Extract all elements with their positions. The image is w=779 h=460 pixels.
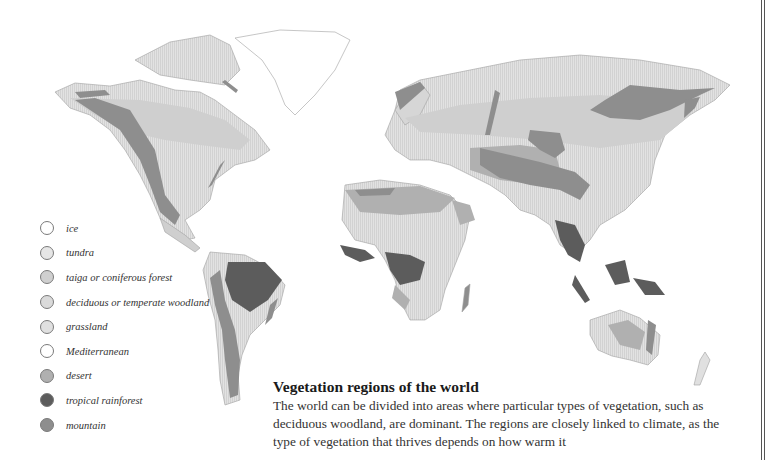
caption-body: The world can be divided into areas wher… [273,397,743,451]
legend-label: desert [66,370,92,381]
legend-item-mediterranean: Mediterranean [40,339,209,364]
ice-swatch-icon [40,221,54,235]
legend-item-tropical-rainforest: tropical rainforest [40,388,209,413]
caption-title: Vegetation regions of the world [273,378,743,396]
legend-label: tropical rainforest [66,395,143,406]
greenland-region [235,30,350,115]
legend-item-ice: ice [40,216,209,241]
legend-item-tundra: tundra [40,241,209,266]
legend-label: ice [66,223,78,234]
legend-item-deciduous: deciduous or temperate woodland [40,290,209,315]
mountain-swatch-icon [40,418,54,432]
legend-item-mountain: mountain [40,413,209,438]
deciduous-swatch-icon [40,295,54,309]
legend-label: Mediterranean [66,346,129,357]
legend-label: tundra [66,247,94,258]
legend-item-taiga: taiga or coniferous forest [40,265,209,290]
legend-item-grassland: grassland [40,314,209,339]
legend-label: taiga or coniferous forest [66,272,172,283]
taiga-swatch-icon [40,270,54,284]
map-legend: ice tundra taiga or coniferous forest de… [40,216,209,437]
desert-swatch-icon [40,369,54,383]
canadian-arctic-islands [135,35,240,85]
legend-item-desert: desert [40,364,209,389]
legend-label: deciduous or temperate woodland [66,297,209,308]
tundra-swatch-icon [40,246,54,260]
frame-rule-right [764,0,765,460]
madagascar-region [462,284,470,312]
mediterranean-swatch-icon [40,344,54,358]
legend-label: grassland [66,321,107,332]
legend-label: mountain [66,420,106,431]
grassland-swatch-icon [40,320,54,334]
rainforest-swatch-icon [40,393,54,407]
frame-rule-left [761,0,762,460]
map-caption: Vegetation regions of the world The worl… [273,378,743,451]
